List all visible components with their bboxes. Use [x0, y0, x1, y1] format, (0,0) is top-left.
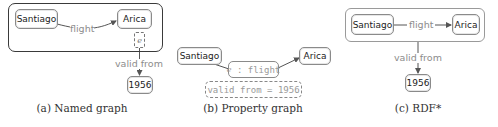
edge-label: flight [248, 65, 281, 75]
edge-e-flight: e : flight [228, 61, 279, 78]
edge-label-valid-from: valid from [394, 53, 442, 63]
node-arica: Arica [299, 47, 331, 65]
node-1956: 1956 [127, 76, 153, 94]
graph-name-label: e [137, 36, 142, 45]
node-label: Arica [455, 20, 478, 30]
node-label: Arica [123, 14, 146, 24]
edge-label-flight: flight [407, 20, 435, 30]
edge-sep: : [231, 65, 247, 75]
node-santiago: Santiago [15, 9, 58, 29]
caption-c: (c) RDF* [395, 102, 441, 114]
caption-b: (b) Property graph [203, 102, 303, 114]
node-santiago: Santiago [177, 47, 222, 65]
node-santiago: Santiago [351, 14, 394, 35]
node-label: 1956 [407, 78, 430, 88]
node-label: 1956 [129, 80, 152, 90]
caption-a: (a) Named graph [37, 102, 128, 114]
node-label: Santiago [17, 14, 57, 24]
edge-label-flight: flight [70, 24, 94, 34]
node-arica: Arica [452, 14, 480, 35]
node-arica: Arica [117, 9, 152, 29]
edge-label-valid-from: valid from [115, 59, 163, 69]
property-label: valid from = 1956 [207, 85, 299, 95]
graph-name-e: e [134, 32, 145, 48]
node-1956: 1956 [405, 74, 431, 92]
node-label: Arica [304, 51, 327, 61]
node-label: Santiago [180, 51, 220, 61]
edge-property: valid from = 1956 [205, 81, 302, 98]
node-label: Santiago [353, 20, 393, 30]
